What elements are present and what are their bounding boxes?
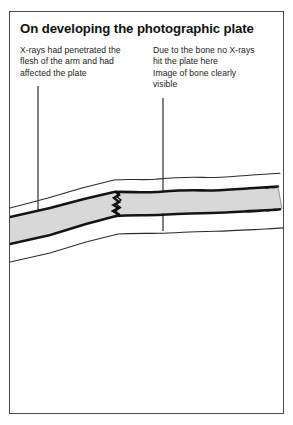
arm-bone-cross-section-diagram bbox=[10, 12, 284, 414]
lower-flesh-outline bbox=[10, 228, 284, 262]
figure-panel: On developing the photographic plate X-r… bbox=[9, 11, 284, 414]
